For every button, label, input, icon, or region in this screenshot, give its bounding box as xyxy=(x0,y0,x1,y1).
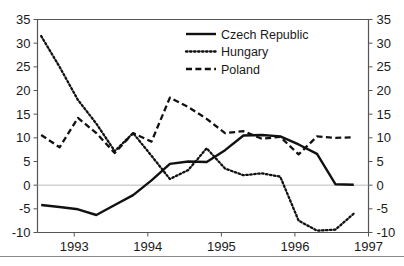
x-axis-tick-label: 1993 xyxy=(60,239,89,254)
chart-legend: Czech RepublicHungaryPoland xyxy=(186,28,309,77)
legend-label-poland: Poland xyxy=(221,63,260,77)
y-axis-tick-label-right: 35 xyxy=(377,12,391,27)
series-line-poland xyxy=(41,98,354,155)
x-axis-tick-label: 1997 xyxy=(354,239,383,254)
legend-label-czech-republic: Czech Republic xyxy=(221,28,309,42)
x-axis-tick-label: 1995 xyxy=(207,239,236,254)
line-chart: -10-10-5-5005510101515202025253030353519… xyxy=(0,0,404,266)
y-axis-tick-label-left: 5 xyxy=(23,154,30,169)
legend-label-hungary: Hungary xyxy=(221,45,269,59)
y-axis-tick-label-left: 10 xyxy=(16,130,30,145)
x-axis-tick-label: 1996 xyxy=(280,239,309,254)
y-axis-tick-label-left: -10 xyxy=(12,225,31,240)
y-axis-tick-label-right: 20 xyxy=(377,83,391,98)
chart-container: -10-10-5-5005510101515202025253030353519… xyxy=(0,0,404,266)
y-axis-tick-label-right: 30 xyxy=(377,36,391,51)
y-axis-tick-label-right: -5 xyxy=(377,201,389,216)
y-axis-tick-label-left: 30 xyxy=(16,36,30,51)
y-axis-tick-label-right: 10 xyxy=(377,130,391,145)
y-axis-tick-label-right: 15 xyxy=(377,107,391,122)
y-axis-tick-label-right: 5 xyxy=(377,154,384,169)
y-axis-tick-label-left: 20 xyxy=(16,83,30,98)
y-axis-tick-label-left: 0 xyxy=(23,178,30,193)
y-axis-tick-label-left: -5 xyxy=(19,201,31,216)
y-axis-tick-label-right: 25 xyxy=(377,59,391,74)
x-axis-tick-label: 1994 xyxy=(133,239,162,254)
series-line-hungary xyxy=(41,36,354,231)
y-axis-tick-label-left: 15 xyxy=(16,107,30,122)
y-axis-tick-label-left: 35 xyxy=(16,12,30,27)
y-axis-tick-label-right: 0 xyxy=(377,178,384,193)
y-axis-tick-label-left: 25 xyxy=(16,59,30,74)
